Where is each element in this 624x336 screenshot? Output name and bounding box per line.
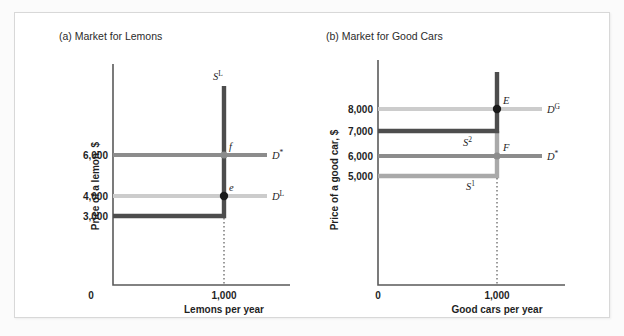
panel-a-label-supply: SL [213,69,223,82]
panel-b-curve-supply-2 [378,72,497,131]
panel-a-point-e-label: e [229,182,234,193]
figure-root: (a) Market for Lemons Price of a lemon, … [0,0,624,336]
panel-b-label-demand-good-superscript: G [555,102,561,111]
panel-b-xtick-0: 0 [375,290,381,301]
panel-b-xtick-1000: 1,000 [484,290,509,301]
panel-b-ytick-8000: 8,000 [348,104,373,115]
panel-b-label-demand-star: D* [546,149,559,162]
panel-b-curve-supply-1 [378,131,497,176]
panel-b-ytick-7000: 7,000 [348,126,373,137]
panel-a-point-e-marker [220,192,228,200]
panel-b-label-supply-2-superscript: 2 [468,135,472,144]
panel-a-label-demand-lemon-superscript: L [280,189,285,198]
panel-b-title: (b) Market for Good Cars [326,30,443,42]
panel-a-label-demand-lemon: DL [271,189,285,202]
panel-a-label-demand-star-superscript: * [280,148,284,157]
economics-figure: (a) Market for Lemons Price of a lemon, … [0,0,624,336]
panel-b-point-F-marker [493,152,500,159]
panel-b-label-demand-star-superscript: * [555,149,559,158]
panel-a-axes [113,64,290,285]
panel-a: (a) Market for Lemons Price of a lemon, … [59,30,290,315]
panel-b-label-supply-1: S1 [466,179,475,192]
panel-a-label-demand-star: D* [271,148,284,161]
panel-b-ytick-5000: 5,000 [348,171,373,182]
panel-a-xtick-0: 0 [88,290,94,301]
panel-a-point-f-label: f [229,141,234,152]
panel-b-label-supply-2: S2 [463,135,472,148]
panel-b-point-E-label: E [502,95,510,106]
panel-a-title: (a) Market for Lemons [59,30,162,42]
panel-a-x-axis-label: Lemons per year [184,304,264,315]
panel-a-ytick-3000: 3,000 [83,211,108,222]
panel-b-axes [378,60,565,285]
panel-b: (b) Market for Good Cars Price of a good… [326,30,565,315]
panel-b-y-axis-label: Price of a good car, $ [329,129,340,230]
panel-b-point-F-label: F [502,142,510,153]
panel-a-ytick-6000: 6,000 [83,150,108,161]
panel-b-x-axis-label: Good cars per year [451,304,542,315]
panel-a-xtick-1000: 1,000 [211,290,236,301]
panel-b-label-supply-1-superscript: 1 [471,179,475,188]
panel-b-point-E-marker [493,105,501,113]
panel-b-ytick-6000: 6,000 [348,151,373,162]
panel-a-ytick-4000: 4,000 [83,191,108,202]
panel-b-label-demand-good: DG [546,102,561,115]
panel-a-label-supply-superscript: L [218,69,223,78]
panel-a-point-f-marker [220,151,227,158]
